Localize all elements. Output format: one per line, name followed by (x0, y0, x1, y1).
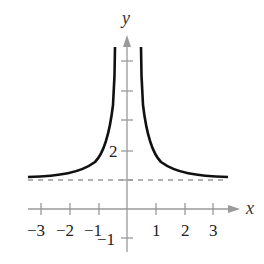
x-tick-label-neg3: −3 (27, 221, 45, 240)
y-axis-label: y (120, 8, 130, 28)
function-graph: y x 2 −1 −3 −2 −1 1 2 3 (0, 0, 264, 264)
x-tick-label-2: 2 (181, 221, 190, 240)
x-tick-label-1: 1 (152, 221, 161, 240)
y-axis-arrow-icon (123, 35, 131, 47)
x-axis-arrow-icon (228, 205, 240, 213)
x-tick-label-neg1: −1 (84, 221, 102, 240)
curve-right-branch (141, 47, 228, 177)
x-tick-label-3: 3 (209, 221, 218, 240)
x-tick-label-neg2: −2 (56, 221, 74, 240)
x-axis-label: x (245, 198, 254, 218)
curve-left-branch (28, 47, 115, 177)
y-tick-label-2: 2 (109, 142, 118, 161)
